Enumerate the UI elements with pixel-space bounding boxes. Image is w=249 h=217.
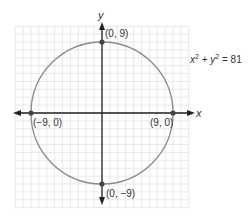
x-axis-label: x [195,107,202,119]
y-axis-label: y [97,9,105,21]
point-label-left: (−9, 0) [33,117,62,128]
point-top [99,39,104,44]
point-bottom [99,181,104,186]
coordinate-plane: (0, 9) (−9, 0) (9, 0) (0, −9) y x x2 + y… [0,0,249,217]
point-label-top: (0, 9) [105,28,128,39]
eq-rhs: = 81 [219,54,242,65]
eq-plus: + [199,54,210,65]
point-label-right: (9, 0) [150,117,173,128]
circle-equation: x2 + y2 = 81 [189,53,242,65]
point-left [28,110,33,115]
x-axis-right-arrow-icon [187,110,195,116]
point-right [170,110,175,115]
y-axis-down-arrow-icon [99,197,105,205]
point-label-bottom: (0, −9) [106,188,135,199]
x-axis-left-arrow-icon [13,110,21,116]
